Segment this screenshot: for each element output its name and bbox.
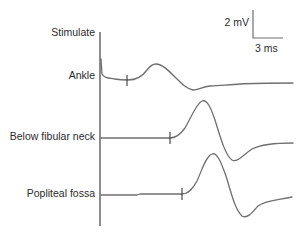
trace-label-below-fibular-neck: Below fibular neck (10, 130, 95, 142)
trace-popliteal-fossa (101, 154, 292, 217)
scale-time-label: 3 ms (255, 42, 278, 54)
trace-label-popliteal-fossa: Popliteal fossa (27, 187, 95, 199)
trace-below-fibular-neck (101, 101, 293, 161)
scale-bar (253, 10, 283, 38)
trace-label-ankle: Ankle (69, 69, 95, 81)
stimulate-label: Stimulate (51, 26, 95, 38)
scale-voltage-label: 2 mV (224, 16, 249, 28)
nerve-conduction-figure: Stimulate Ankle Below fibular neck Popli… (0, 0, 301, 233)
trace-ankle (101, 59, 293, 90)
